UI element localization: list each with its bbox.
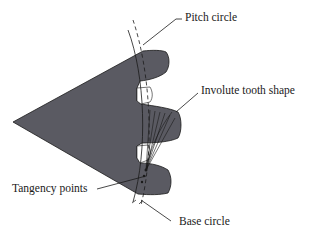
pitch-circle-leader: [143, 19, 182, 45]
pitch-circle-label: Pitch circle: [185, 12, 237, 24]
tangency-points-label: Tangency points: [12, 183, 88, 195]
involute-tooth-shape-label: Involute tooth shape: [201, 85, 295, 97]
base-circle-leader: [141, 200, 171, 221]
involute-leader: [176, 93, 198, 112]
gear-diagram: [0, 0, 314, 241]
base-circle-label: Base circle: [179, 216, 230, 228]
tooth-gap-upper: [137, 87, 152, 104]
gear-sector: [13, 50, 181, 194]
